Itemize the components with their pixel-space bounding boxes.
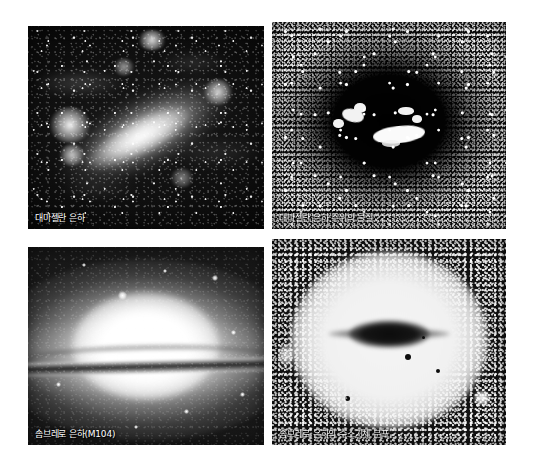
panel-caption: 솜브레로 은하(M104) <box>35 429 115 440</box>
panel-caption: 솜브레로 은하의 수소기체 분포 <box>279 429 388 440</box>
noise-rim <box>272 239 506 445</box>
panel-lmc-optical[interactable]: 대마젤란 은하 <box>28 26 264 229</box>
panel-caption: 대마젤란 은하 <box>35 213 84 224</box>
figure-sheet: 대마젤란 은하 대마젤란 은하 주위의 물질 솜브레로 <box>0 0 534 468</box>
panel-caption: 대마젤란 은하 주위의 물질 <box>279 213 373 224</box>
film-grain <box>28 247 264 445</box>
noise-rim <box>272 22 506 229</box>
panel-m104-optical[interactable]: 솜브레로 은하(M104) <box>28 247 264 445</box>
star-field <box>28 26 264 229</box>
panel-m104-hydrogen[interactable]: 솜브레로 은하의 수소기체 분포 <box>272 239 506 445</box>
panel-lmc-hydrogen[interactable]: 대마젤란 은하 주위의 물질 <box>272 22 506 229</box>
